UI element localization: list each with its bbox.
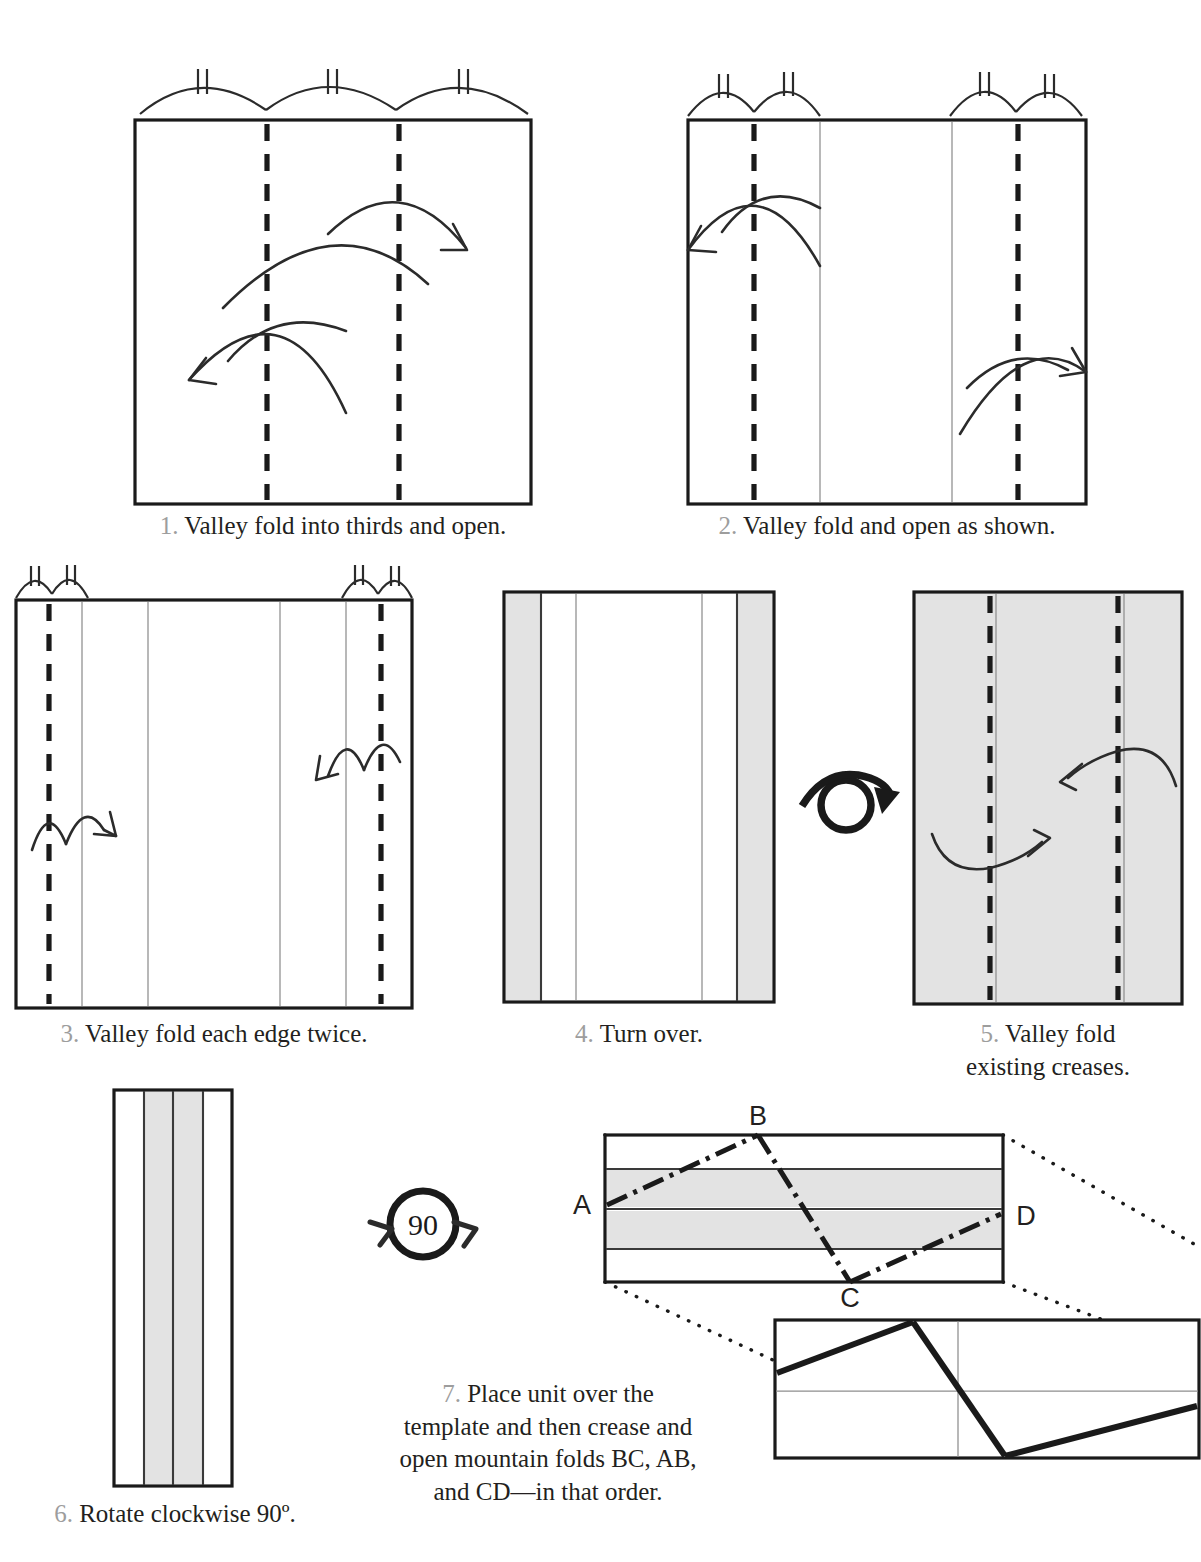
- step-5-diagram: [910, 588, 1186, 1008]
- step-6-number: 6.: [54, 1500, 73, 1527]
- step-7-text-line-2: template and then crease and: [404, 1413, 693, 1440]
- step-4-diagram: [500, 588, 778, 1008]
- rotate-symbol: 90: [368, 1172, 478, 1276]
- template-sheet: [775, 1320, 1199, 1458]
- step-2-number: 2.: [718, 512, 737, 539]
- step-7-text-line-4: and CD—in that order.: [433, 1478, 662, 1505]
- rotate-degrees: 90: [408, 1208, 438, 1241]
- turn-over-arrowhead: [874, 787, 900, 814]
- step-4-caption: 4. Turn over.: [500, 1018, 778, 1051]
- step-7-caption: 7. Place unit over the template and then…: [383, 1378, 713, 1508]
- shaded-band: [145, 1092, 174, 1484]
- step-1-number: 1.: [160, 512, 179, 539]
- step-7-text-line-3: open mountain folds BC, AB,: [399, 1445, 696, 1472]
- point-label-c: C: [840, 1283, 860, 1313]
- step-5-text-line-2: existing creases.: [966, 1053, 1130, 1080]
- step-4-number: 4.: [575, 1020, 594, 1047]
- step-6-text: Rotate clockwise 90º.: [79, 1500, 296, 1527]
- paper-sheet: [914, 592, 1182, 1004]
- step-6-diagram: [110, 1086, 240, 1490]
- step-3-caption: 3. Valley fold each edge twice.: [12, 1018, 416, 1051]
- step-5-text-line-1: Valley fold: [1005, 1020, 1115, 1047]
- step-7-number: 7.: [442, 1380, 461, 1407]
- tick-mark: [459, 69, 468, 94]
- step-3-text: Valley fold each edge twice.: [85, 1020, 368, 1047]
- step-3-number: 3.: [60, 1020, 79, 1047]
- step-1-diagram: [128, 36, 538, 506]
- step-2-text: Valley fold and open as shown.: [743, 512, 1055, 539]
- tick-mark: [391, 566, 399, 586]
- step-7-text-line-1: Place unit over the: [467, 1380, 654, 1407]
- step-1-caption: 1. Valley fold into thirds and open.: [128, 510, 538, 543]
- point-label-d: D: [1016, 1201, 1036, 1231]
- step-1-text: Valley fold into thirds and open.: [184, 512, 506, 539]
- step-5-number: 5.: [981, 1020, 1000, 1047]
- paper-sheet: [504, 592, 774, 1002]
- paper-sheet: [16, 600, 412, 1008]
- shaded-band: [506, 594, 540, 1000]
- step-2-caption: 2. Valley fold and open as shown.: [684, 510, 1090, 543]
- shaded-band: [738, 594, 772, 1000]
- rotate-arrowhead-left: [370, 1222, 392, 1245]
- step-5-caption: 5. Valley fold existing creases.: [910, 1018, 1186, 1083]
- step-3-diagram: [12, 562, 416, 1014]
- tick-mark: [198, 69, 207, 94]
- point-label-b: B: [749, 1101, 767, 1131]
- tick-mark: [31, 566, 39, 586]
- equal-division-arcs: [16, 565, 412, 598]
- shaded-band: [607, 1169, 1001, 1207]
- paper-sheet: [135, 120, 531, 504]
- tick-mark: [328, 69, 337, 94]
- point-label-a: A: [573, 1190, 591, 1220]
- turn-over-symbol: [796, 752, 910, 848]
- step-2-diagram: [684, 36, 1090, 506]
- shaded-band: [174, 1092, 203, 1484]
- equal-division-arcs: [140, 69, 528, 114]
- paper-sheet: [688, 120, 1086, 504]
- equal-division-arcs: [688, 72, 1082, 116]
- step-6-caption: 6. Rotate clockwise 90º.: [25, 1498, 325, 1531]
- turn-over-loop: [821, 780, 871, 830]
- tick-mark: [719, 74, 728, 98]
- step-4-text: Turn over.: [600, 1020, 703, 1047]
